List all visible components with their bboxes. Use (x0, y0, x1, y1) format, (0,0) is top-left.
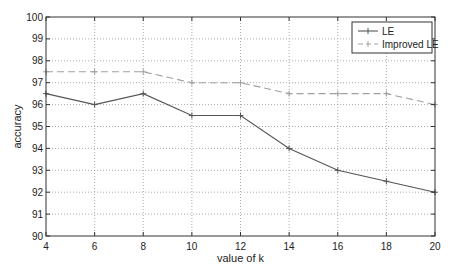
data-point-marker (335, 167, 341, 173)
data-point-marker (92, 102, 98, 108)
y-axis-label: accuracy (11, 104, 23, 149)
data-point-marker (92, 69, 98, 75)
y-tick-label: 100 (26, 12, 43, 23)
data-point-marker (140, 69, 146, 75)
y-tick-label: 96 (32, 99, 44, 110)
y-tick-label: 91 (32, 209, 44, 220)
data-point-marker (140, 91, 146, 97)
x-axis-label: value of k (217, 252, 265, 264)
line-chart: 90919293949596979899100 468101214161820 … (0, 0, 457, 276)
data-point-marker (383, 178, 389, 184)
data-point-marker (238, 113, 244, 119)
legend-label-improved-le: Improved LE (382, 39, 439, 50)
legend: LE Improved LE (352, 22, 439, 53)
data-point-marker (286, 145, 292, 151)
data-point-marker (189, 80, 195, 86)
y-tick-label: 99 (32, 33, 44, 44)
series-line-le (46, 94, 435, 193)
y-tick-label: 93 (32, 165, 44, 176)
x-tick-label: 12 (235, 241, 247, 252)
legend-label-le: LE (382, 26, 395, 37)
y-tick-label: 90 (32, 231, 44, 242)
data-point-marker (286, 91, 292, 97)
y-tick-label: 97 (32, 77, 44, 88)
x-tick-label: 10 (186, 241, 198, 252)
data-point-marker (189, 113, 195, 119)
y-tick-label: 92 (32, 187, 44, 198)
x-tick-label: 20 (429, 241, 441, 252)
x-tick-label: 4 (43, 241, 49, 252)
x-tick-label: 18 (381, 241, 393, 252)
data-point-marker (238, 80, 244, 86)
x-tick-label: 6 (92, 241, 98, 252)
data-point-marker (383, 91, 389, 97)
x-tick-label: 16 (332, 241, 344, 252)
x-tick-label: 8 (140, 241, 146, 252)
x-tick-label: 14 (284, 241, 296, 252)
y-tick-label: 94 (32, 143, 44, 154)
y-tick-label: 98 (32, 55, 44, 66)
y-tick-label: 95 (32, 121, 44, 132)
series-line-improved-le (46, 72, 435, 105)
data-point-marker (335, 91, 341, 97)
